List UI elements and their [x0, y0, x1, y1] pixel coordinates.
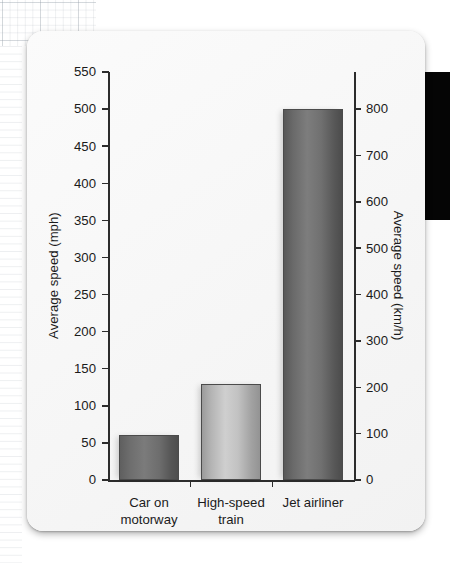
y-tick-left: [102, 145, 109, 146]
y-tick-left: [102, 108, 109, 109]
y-tick-left: [102, 368, 109, 369]
y-tick-left: [102, 442, 109, 443]
y-tick-label-left: 400: [74, 177, 96, 190]
x-category-label-line: train: [171, 511, 291, 528]
y-tick-label-left: 150: [74, 362, 96, 375]
y-tick-label-right: 100: [366, 427, 388, 440]
black-edge-tab: [421, 72, 450, 220]
y-axis-left-line: [108, 72, 110, 481]
x-category-label: Jet airliner: [253, 494, 373, 511]
x-axis-line: [108, 480, 355, 482]
bar-chart: 050100150200250300350400450500550 010020…: [27, 31, 425, 531]
y-tick-right: [354, 108, 361, 109]
y-axis-left-title: Average speed (mph): [47, 176, 60, 376]
page-root: 050100150200250300350400450500550 010020…: [0, 0, 450, 563]
y-tick-left: [102, 479, 109, 480]
y-tick-right: [354, 294, 361, 295]
y-tick-right: [354, 479, 361, 480]
y-tick-left: [102, 183, 109, 184]
y-axis-right-title: Average speed (km/h): [391, 176, 404, 376]
y-tick-left: [102, 331, 109, 332]
y-tick-right: [354, 340, 361, 341]
y-tick-label-right: 0: [366, 473, 373, 486]
y-tick-label-left: 450: [74, 140, 96, 153]
y-tick-left: [102, 71, 109, 72]
x-tick: [190, 481, 191, 487]
y-tick-label-left: 50: [81, 436, 96, 449]
y-tick-label-left: 350: [74, 214, 96, 227]
y-tick-left: [102, 294, 109, 295]
y-tick-label-left: 500: [74, 102, 96, 115]
y-tick-label-left: 100: [74, 399, 96, 412]
x-tick: [272, 481, 273, 487]
y-tick-label-right: 700: [366, 149, 388, 162]
y-tick-right: [354, 387, 361, 388]
y-axis-right-line: [354, 72, 356, 481]
bar-1: [201, 384, 261, 480]
y-tick-label-right: 600: [366, 195, 388, 208]
y-tick-right: [354, 155, 361, 156]
y-tick-right: [354, 433, 361, 434]
y-tick-label-right: 300: [366, 334, 388, 347]
y-tick-label-left: 200: [74, 325, 96, 338]
y-tick-label-left: 550: [74, 65, 96, 78]
y-tick-label-right: 400: [366, 288, 388, 301]
bar-2: [283, 109, 343, 480]
y-tick-left: [102, 257, 109, 258]
y-tick-label-left: 0: [89, 473, 96, 486]
paper-edge-left: [0, 46, 22, 563]
y-tick-right: [354, 201, 361, 202]
y-tick-label-left: 300: [74, 251, 96, 264]
y-tick-left: [102, 220, 109, 221]
x-category-label-line: Jet airliner: [253, 494, 373, 511]
chart-card: 050100150200250300350400450500550 010020…: [27, 31, 425, 531]
y-tick-label-right: 500: [366, 242, 388, 255]
y-tick-left: [102, 405, 109, 406]
y-tick-label-left: 250: [74, 288, 96, 301]
y-tick-label-right: 200: [366, 381, 388, 394]
y-tick-right: [354, 247, 361, 248]
y-tick-label-right: 800: [366, 102, 388, 115]
bar-0: [119, 435, 179, 480]
